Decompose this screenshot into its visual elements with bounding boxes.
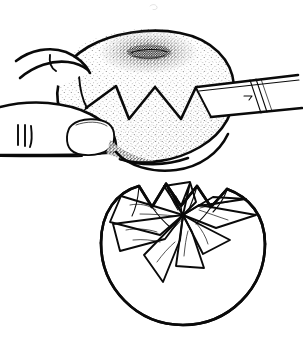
fruit-crown-cut-illustration [0,0,303,339]
stem-scar [96,28,202,76]
illustration-figure: Crown-cut (Vandyke) fruit preparation [0,0,303,339]
